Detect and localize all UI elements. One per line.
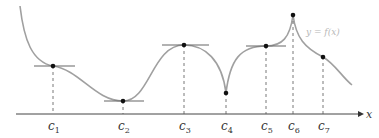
point-c1 — [51, 64, 56, 69]
point-c4 — [224, 91, 229, 96]
point-c7 — [321, 55, 326, 60]
tick-label-c2: c2 — [118, 119, 130, 135]
tick-label-c7: c7 — [318, 119, 330, 135]
point-c5 — [264, 44, 269, 49]
x-axis-label: x — [366, 108, 373, 121]
tick-label-c4: c4 — [221, 119, 233, 135]
point-c2 — [121, 99, 126, 104]
tick-label-c5: c5 — [261, 119, 273, 135]
point-c3 — [182, 43, 187, 48]
tick-label-c6: c6 — [288, 119, 300, 135]
function-curve — [20, 6, 352, 101]
function-diagram: x y = f(x) c1 c2 c3 c4 c5 c6 c7 — [0, 0, 379, 138]
tick-label-c1: c1 — [48, 119, 60, 135]
x-axis-arrow-icon — [358, 111, 364, 117]
curve-label: y = f(x) — [305, 27, 340, 37]
point-c6 — [291, 13, 296, 18]
tick-label-c3: c3 — [179, 119, 191, 135]
